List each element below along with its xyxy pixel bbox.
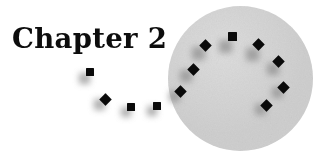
marker-square [153, 102, 161, 110]
marker-square [86, 68, 94, 76]
figure-canvas: Chapter 2 [0, 0, 325, 165]
marker-shadow [219, 40, 232, 53]
marker-square [127, 103, 135, 111]
marker-square [228, 32, 237, 41]
page-title: Chapter 2 [12, 24, 167, 54]
